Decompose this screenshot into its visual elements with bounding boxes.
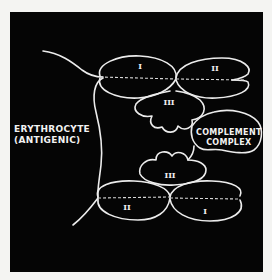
bottom-lobe-2-shape <box>97 181 170 220</box>
bottom-lobe-1-label: I <box>203 207 207 216</box>
bottom-lobe-2-label: II <box>123 203 130 212</box>
top-lobe-1-label: I <box>138 62 142 71</box>
top-lobe-2-label: II <box>211 64 218 73</box>
bottom-lobe-3-label: III <box>164 171 175 180</box>
top-lobe-3-label: III <box>163 98 174 107</box>
complement-label-line2: COMPLEX <box>196 138 262 148</box>
complement-to-lower-lobe <box>188 146 194 160</box>
complement-complex-label: COMPLEMENT COMPLEX <box>196 128 262 148</box>
erythrocyte-label: ERYTHROCYTE (ANTIGENIC) <box>14 124 90 146</box>
erythrocyte-membrane <box>43 51 103 77</box>
erythrocyte-label-line2: (ANTIGENIC) <box>14 135 90 146</box>
erythrocyte-label-line1: ERYTHROCYTE <box>14 124 90 135</box>
complement-label-line1: COMPLEMENT <box>196 128 262 138</box>
